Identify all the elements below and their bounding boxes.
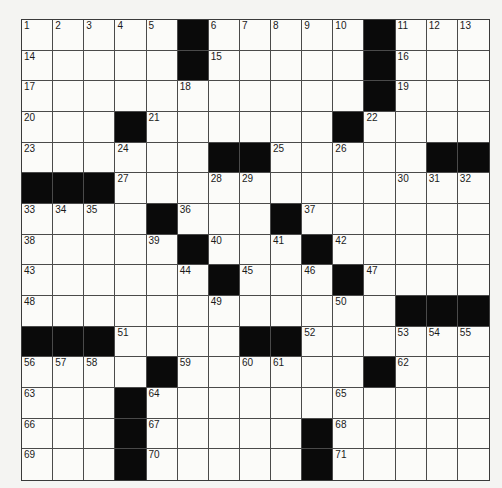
grid-cell[interactable]: 68 [333,419,364,450]
grid-cell[interactable] [396,388,427,419]
grid-cell[interactable] [53,112,84,143]
grid-cell[interactable]: 54 [427,327,458,358]
grid-cell[interactable]: 35 [84,204,115,235]
grid-cell[interactable] [84,265,115,296]
grid-cell[interactable]: 39 [147,235,178,266]
grid-cell[interactable] [84,81,115,112]
grid-cell[interactable]: 36 [178,204,209,235]
grid-cell[interactable] [209,449,240,480]
grid-cell[interactable]: 37 [302,204,333,235]
grid-cell[interactable] [333,51,364,82]
grid-cell[interactable]: 3 [84,20,115,51]
grid-cell[interactable] [178,449,209,480]
grid-cell[interactable] [84,51,115,82]
grid-cell[interactable] [147,173,178,204]
grid-cell[interactable] [53,51,84,82]
grid-cell[interactable] [302,51,333,82]
grid-cell[interactable] [209,388,240,419]
grid-cell[interactable] [302,296,333,327]
grid-cell[interactable] [115,81,146,112]
grid-cell[interactable] [53,388,84,419]
grid-cell[interactable]: 45 [240,265,271,296]
grid-cell[interactable] [271,81,302,112]
grid-cell[interactable]: 63 [22,388,53,419]
grid-cell[interactable] [458,235,489,266]
grid-cell[interactable] [240,204,271,235]
grid-cell[interactable]: 25 [271,143,302,174]
grid-cell[interactable]: 47 [364,265,395,296]
grid-cell[interactable]: 28 [209,173,240,204]
grid-cell[interactable]: 59 [178,357,209,388]
grid-cell[interactable] [178,327,209,358]
grid-cell[interactable]: 21 [147,112,178,143]
grid-cell[interactable] [364,419,395,450]
grid-cell[interactable] [147,81,178,112]
grid-cell[interactable] [364,143,395,174]
grid-cell[interactable] [115,296,146,327]
grid-cell[interactable]: 24 [115,143,146,174]
grid-cell[interactable]: 40 [209,235,240,266]
grid-cell[interactable]: 18 [178,81,209,112]
grid-cell[interactable] [427,449,458,480]
grid-cell[interactable] [84,419,115,450]
grid-cell[interactable] [53,143,84,174]
grid-cell[interactable] [396,204,427,235]
grid-cell[interactable] [271,51,302,82]
grid-cell[interactable] [84,296,115,327]
grid-cell[interactable]: 7 [240,20,271,51]
grid-cell[interactable]: 11 [396,20,427,51]
grid-cell[interactable] [84,235,115,266]
grid-cell[interactable] [396,143,427,174]
grid-cell[interactable] [364,296,395,327]
grid-cell[interactable]: 20 [22,112,53,143]
grid-cell[interactable] [427,51,458,82]
grid-cell[interactable] [364,204,395,235]
grid-cell[interactable] [333,173,364,204]
grid-cell[interactable] [147,51,178,82]
grid-cell[interactable] [364,235,395,266]
grid-cell[interactable]: 2 [53,20,84,51]
grid-cell[interactable] [115,51,146,82]
grid-cell[interactable]: 60 [240,357,271,388]
grid-cell[interactable] [396,265,427,296]
grid-cell[interactable]: 43 [22,265,53,296]
grid-cell[interactable]: 58 [84,357,115,388]
grid-cell[interactable] [84,449,115,480]
grid-cell[interactable]: 31 [427,173,458,204]
grid-cell[interactable] [115,357,146,388]
grid-cell[interactable]: 4 [115,20,146,51]
grid-cell[interactable] [427,265,458,296]
grid-cell[interactable] [209,327,240,358]
grid-cell[interactable] [84,143,115,174]
grid-cell[interactable]: 15 [209,51,240,82]
grid-cell[interactable] [333,204,364,235]
grid-cell[interactable] [147,143,178,174]
grid-cell[interactable] [427,419,458,450]
grid-cell[interactable] [84,112,115,143]
grid-cell[interactable]: 5 [147,20,178,51]
grid-cell[interactable] [458,449,489,480]
grid-cell[interactable]: 22 [364,112,395,143]
grid-cell[interactable] [302,388,333,419]
grid-cell[interactable] [302,357,333,388]
grid-cell[interactable] [84,388,115,419]
grid-cell[interactable] [427,204,458,235]
grid-cell[interactable] [427,235,458,266]
grid-cell[interactable]: 12 [427,20,458,51]
grid-cell[interactable]: 57 [53,357,84,388]
grid-cell[interactable] [178,143,209,174]
grid-cell[interactable]: 66 [22,419,53,450]
grid-cell[interactable] [302,81,333,112]
grid-cell[interactable]: 70 [147,449,178,480]
grid-cell[interactable] [427,388,458,419]
grid-cell[interactable]: 67 [147,419,178,450]
grid-cell[interactable] [364,327,395,358]
grid-cell[interactable]: 13 [458,20,489,51]
grid-cell[interactable]: 17 [22,81,53,112]
grid-cell[interactable] [271,388,302,419]
grid-cell[interactable]: 55 [458,327,489,358]
grid-cell[interactable] [240,81,271,112]
grid-cell[interactable] [178,419,209,450]
grid-cell[interactable] [364,388,395,419]
grid-cell[interactable] [147,327,178,358]
